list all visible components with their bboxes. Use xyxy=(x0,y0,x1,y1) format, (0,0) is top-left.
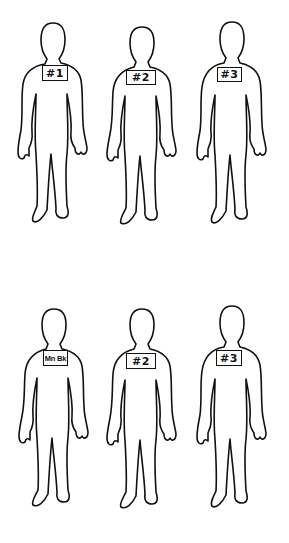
person-outline-icon xyxy=(196,21,268,225)
name-tag: #3 xyxy=(216,350,242,366)
person-outline-icon xyxy=(17,22,89,224)
person-outline-icon xyxy=(18,308,90,508)
figure-4: Mn Bk xyxy=(18,308,90,508)
name-tag: #3 xyxy=(217,67,242,82)
figure-1: #1 xyxy=(17,22,89,224)
person-outline-icon xyxy=(196,305,268,509)
name-tag: #2 xyxy=(126,70,156,85)
person-outline-icon xyxy=(106,26,178,226)
figure-6: #3 xyxy=(196,305,268,509)
figure-5: #2 xyxy=(106,308,178,510)
name-tag: #1 xyxy=(42,65,68,81)
name-tag: Mn Bk xyxy=(43,350,68,366)
figure-2: #2 xyxy=(106,26,178,226)
name-tag: #2 xyxy=(126,353,156,369)
figure-3: #3 xyxy=(196,21,268,225)
person-outline-icon xyxy=(106,308,178,510)
